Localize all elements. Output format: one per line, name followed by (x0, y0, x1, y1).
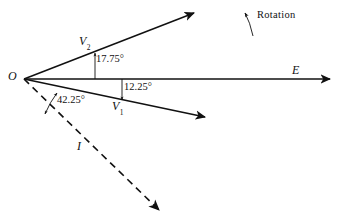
vector-diagram-figure: O V2 V1 E I 17.75° 12.25° 42.25° Rotatio… (0, 0, 339, 221)
rotation-arrow-icon (245, 13, 253, 36)
label-vector-v2-base: V (79, 34, 86, 48)
label-angle-42-25: 42.25° (57, 95, 85, 106)
label-vector-v2-subscript: 2 (87, 43, 91, 52)
label-origin: O (8, 70, 17, 82)
vector-line-i (24, 79, 159, 210)
label-vector-v1-subscript: 1 (120, 108, 124, 117)
vector-line-v2 (24, 13, 194, 79)
arc-angle-42-25 (45, 93, 57, 114)
label-angle-12-25: 12.25° (124, 82, 152, 93)
label-vector-v1-base: V (112, 99, 119, 113)
label-vector-v2: V2 (79, 35, 90, 50)
label-vector-i: I (77, 140, 81, 152)
label-angle-17-75: 17.75° (96, 54, 124, 65)
vector-diagram-canvas (0, 0, 339, 221)
label-vector-v1: V1 (112, 100, 123, 115)
label-rotation: Rotation (257, 10, 296, 21)
label-vector-e: E (292, 64, 299, 76)
